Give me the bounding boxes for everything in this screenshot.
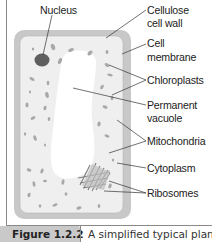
label-vacuole-line1: Permanent: [147, 99, 197, 111]
label-nucleus: Nucleus: [40, 4, 77, 16]
label-cell-wall-line2: cell wall: [147, 17, 182, 29]
label-vacuole-line2: vacuole: [147, 112, 182, 124]
label-membrane-line1: Cell: [147, 37, 164, 49]
label-chloroplasts: Chloroplasts: [147, 74, 204, 86]
plant-cell-diagram: Nucleus Cellulose cell wall Cell membran…: [0, 0, 212, 242]
label-mitochondria: Mitochondria: [147, 135, 205, 147]
nucleus: [35, 54, 50, 67]
figure-number: Figure 1.2.2: [12, 228, 84, 240]
label-cell-wall-line1: Cellulose: [147, 4, 189, 16]
figure-caption: A simplified typical plant: [88, 228, 212, 240]
label-cytoplasm: Cytoplasm: [147, 162, 195, 174]
caption-divider: [80, 226, 81, 242]
label-membrane-line2: membrane: [147, 51, 196, 63]
label-ribosomes: Ribosomes: [147, 187, 198, 199]
